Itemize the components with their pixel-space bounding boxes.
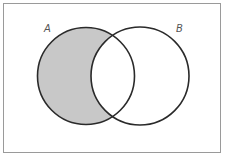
venn-diagram: A B [0,0,225,157]
set-a-label: A [44,24,51,34]
set-b-label: B [176,24,183,34]
venn-svg [0,0,225,157]
